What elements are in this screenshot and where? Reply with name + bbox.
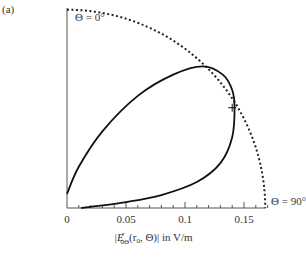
theta-90-label: Θ = 90°: [271, 195, 306, 207]
x-tick-label: 0.05: [116, 213, 136, 225]
x-tick-label: 0.15: [234, 213, 254, 225]
theta-0-label: Θ = 0°: [75, 11, 105, 23]
x-axis-tick-labels: 00.050.10.15: [64, 213, 254, 225]
reference-arc: [67, 10, 265, 208]
x-tick-label: 0.1: [178, 213, 192, 225]
x-tick-label: 0: [64, 213, 70, 225]
x-axis-label: |Er0Θ(r0, Θ)| in V/m: [114, 230, 193, 246]
panel-label: (a): [2, 3, 15, 16]
polar-chart: (a) 00.050.10.15 Θ = 0° Θ = 90° |Er0Θ(r0…: [0, 0, 306, 257]
field-pattern-curve: [67, 66, 235, 208]
